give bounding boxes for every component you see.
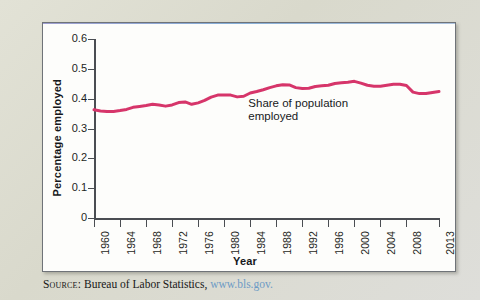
- x-tick: [439, 220, 440, 227]
- chart-panel: Percentage employed Year 00.10.20.30.40.…: [42, 22, 456, 272]
- y-tick-label: 0.5: [72, 61, 87, 76]
- x-tick-label: 1976: [203, 231, 215, 255]
- series-annotation: Share of population employed: [248, 97, 348, 123]
- plot-area: 00.10.20.30.40.50.6 19601964196819721976…: [94, 39, 439, 219]
- x-tick-label: 2004: [385, 231, 397, 255]
- x-tick: [380, 220, 381, 227]
- x-tick: [250, 220, 251, 227]
- panel-top-stripe: [43, 23, 455, 24]
- x-tick: [120, 220, 121, 227]
- x-tick: [354, 220, 355, 227]
- y-tick-label: 0.2: [72, 150, 87, 165]
- x-tick-label: 1996: [333, 231, 345, 255]
- x-axis-title: Year: [233, 255, 257, 267]
- x-tick: [172, 220, 173, 227]
- x-tick: [94, 220, 95, 227]
- x-tick-label: 1988: [281, 231, 293, 255]
- x-tick-label: 1964: [125, 231, 137, 255]
- y-tick-label: 0.1: [72, 180, 87, 195]
- x-tick-label: 2008: [411, 231, 423, 255]
- x-tick: [224, 220, 225, 227]
- figure-page: Percentage employed Year 00.10.20.30.40.…: [0, 0, 480, 300]
- x-tick: [276, 220, 277, 227]
- x-tick-label: 1968: [151, 231, 163, 255]
- source-link[interactable]: www.bls.gov.: [210, 278, 273, 290]
- x-tick: [198, 220, 199, 227]
- data-line-share-of-population-employed: [94, 39, 440, 221]
- x-tick: [406, 220, 407, 227]
- y-tick-label: 0.6: [72, 31, 87, 46]
- x-tick: [302, 220, 303, 227]
- x-tick-label: 1992: [307, 231, 319, 255]
- source-label: Source:: [43, 278, 81, 290]
- source-note: Source: Bureau of Labor Statistics, www.…: [43, 278, 273, 290]
- y-tick-label: 0: [81, 210, 87, 225]
- source-agency: Bureau of Labor Statistics,: [84, 278, 207, 290]
- x-tick-label: 2000: [359, 231, 371, 255]
- x-tick: [328, 220, 329, 227]
- x-tick-label: 1980: [229, 231, 241, 255]
- x-tick-label: 1984: [255, 231, 267, 255]
- x-tick-label: 2013: [444, 231, 456, 255]
- x-tick-label: 1960: [99, 231, 111, 255]
- x-tick-label: 1972: [177, 231, 189, 255]
- y-tick-label: 0.3: [72, 121, 87, 136]
- y-axis-title: Percentage employed: [51, 79, 63, 197]
- x-tick: [146, 220, 147, 227]
- y-tick-label: 0.4: [72, 91, 87, 106]
